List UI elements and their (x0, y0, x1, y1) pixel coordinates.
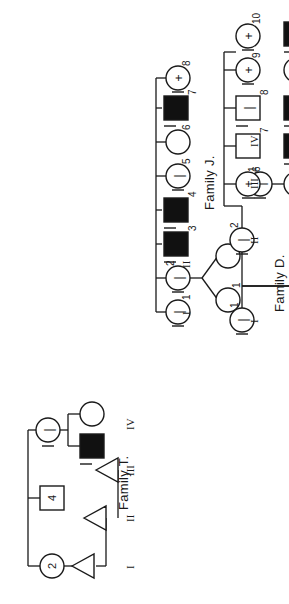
family-t-gen-label-III: III (124, 465, 136, 476)
family-j-gen-label-II: II (180, 261, 192, 268)
family-t-gen-label-I: I (124, 565, 136, 569)
family-t-gen3-member-1 (84, 506, 106, 530)
family-d-gen-label-II: II (248, 237, 260, 244)
family-t-gen1-member-3: | (36, 418, 60, 446)
family-t-unaffected-female (80, 402, 104, 426)
family-d-gen-label-IV: IV (248, 135, 260, 147)
family-t-gen1-member-1-mark: 2 (46, 563, 58, 569)
family-t-affected-male (80, 434, 104, 464)
family-d-gen2-id-2: 2 (230, 222, 240, 228)
family-t-gen-label-IV: IV (124, 418, 136, 430)
family-t-gen4-member-1 (96, 458, 118, 482)
family-t-panel: 2 4 | (6, 396, 136, 596)
family-t-gen-label-II: II (124, 515, 136, 522)
family-t-gen1-member-2-mark: 4 (46, 495, 58, 501)
family-t-gen1-member-3-mark: | (42, 428, 56, 431)
family-d-gen1-id-1: 1 (230, 302, 240, 308)
family-t-gen1-member-2: 4 (40, 486, 64, 510)
family-d-gen-labels: I II III IV (246, 22, 266, 352)
family-t-title: Family T. (116, 456, 131, 510)
family-d-gen-label-I: I (248, 319, 260, 323)
family-j-gen-label-I: I (180, 311, 192, 315)
family-j-gen-labels: I II (178, 60, 198, 330)
family-t-gen2-member-1 (72, 554, 94, 578)
family-d-gen-label-III: III (248, 178, 260, 189)
family-d-title: Family D. (272, 254, 287, 312)
family-j-gen1-id-2: 2 (166, 260, 176, 266)
family-d-labels: Family D. (268, 22, 289, 352)
family-t-gen1-member-1: 2 (40, 554, 64, 578)
